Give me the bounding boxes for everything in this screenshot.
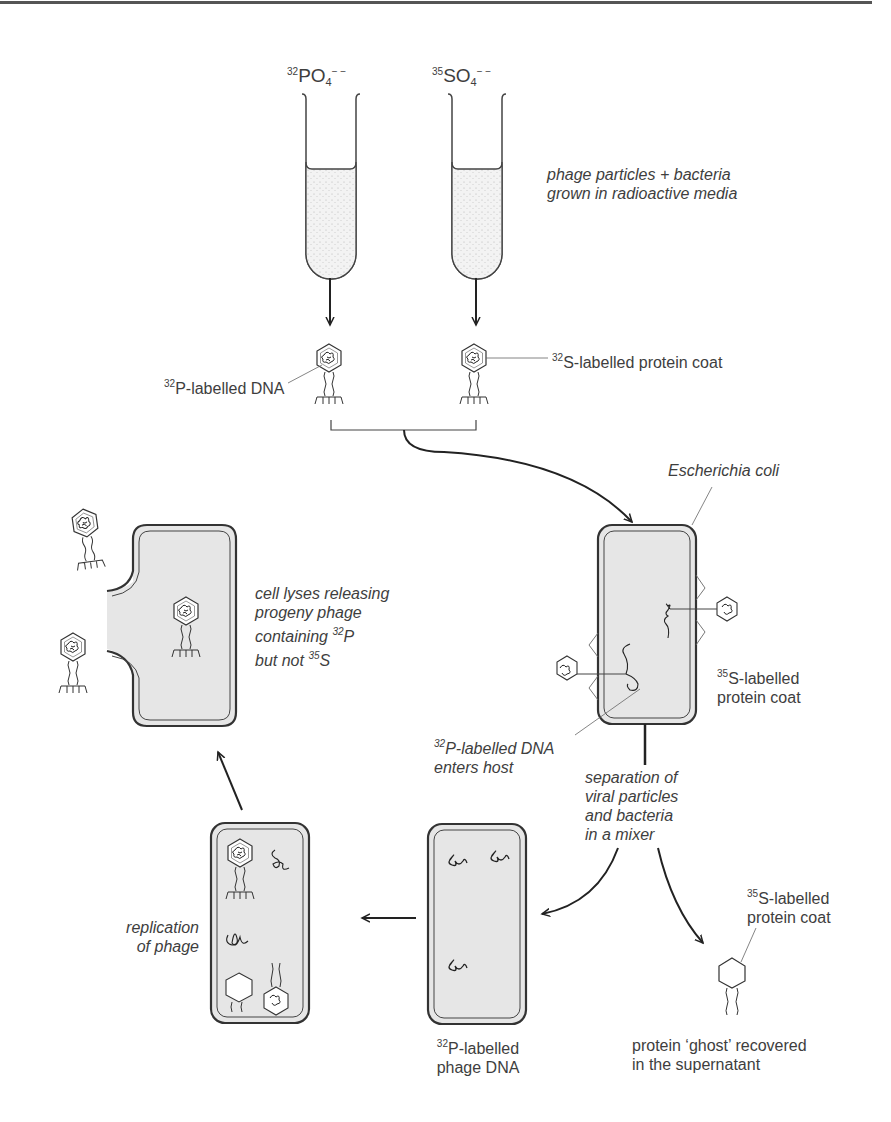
phage-s35 <box>460 344 488 404</box>
tube-sulfate <box>448 94 506 279</box>
s-coat-label-top: 32S-labelled protein coat <box>552 348 722 372</box>
arrow-to-lysis <box>218 752 242 810</box>
arrow-to-supernatant <box>658 848 703 943</box>
dna-enters-label: 32P-labelled DNA enters host <box>434 734 555 777</box>
ghost-label: protein ‘ghost’ recovered in the superna… <box>632 1036 807 1074</box>
replication-label: replication of phage <box>115 918 199 956</box>
s-coat-label-mid: 35S-labelled protein coat <box>717 664 801 707</box>
lysis-label: cell lyses releasing progeny phage conta… <box>255 584 389 670</box>
protein-ghost <box>719 928 756 1015</box>
ecoli-label: Escherichia coli <box>668 461 779 480</box>
progeny-phage-2 <box>59 633 87 693</box>
separation-label: separation of viral particles and bacter… <box>585 768 678 844</box>
replication-cell <box>211 823 309 1023</box>
tube-label-phosphate: 32PO4− − <box>287 62 346 88</box>
ecoli-cell <box>557 487 737 735</box>
phage-dna-label: 32P-labelled phage DNA <box>428 1034 528 1077</box>
lysing-cell <box>107 525 236 726</box>
s-coat-label-ghost: 35S-labelled protein coat <box>747 884 831 927</box>
infected-cell-dna <box>428 824 526 1024</box>
progeny-phage-1 <box>69 507 105 570</box>
arrow-to-ecoli <box>404 430 632 522</box>
tube-phosphate <box>302 94 360 279</box>
arrow-to-pellet <box>542 848 618 914</box>
media-label: phage particles + bacteria grown in radi… <box>547 165 737 203</box>
tube-label-sulfate: 35SO4− − <box>432 62 491 88</box>
p-dna-label: 32P-labelled DNA <box>164 374 285 398</box>
phage-p32 <box>315 344 343 404</box>
